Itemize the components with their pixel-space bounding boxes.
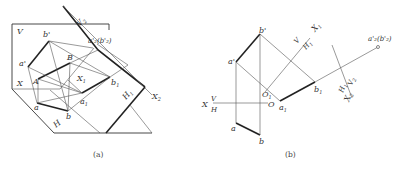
label-x1: X1: [76, 74, 86, 84]
h1-plane-bottom: [130, 105, 152, 133]
label-o1-b: O1: [262, 90, 272, 100]
figure-b: b' a' X V H O O1 a b a1 b1 V H1 X1 a'₂(b…: [201, 21, 392, 159]
v-plane-frame: [12, 24, 109, 89]
segment-ab-b: [236, 123, 260, 135]
segment-ab-projection: [37, 103, 68, 111]
label-v: V: [17, 27, 24, 36]
segment-a1b1: [82, 77, 110, 93]
label-h-b: H: [210, 106, 218, 114]
label-a-prime: a': [19, 59, 26, 68]
label-a1: a1: [80, 97, 88, 107]
label-b-b: b: [259, 137, 264, 146]
label-x: X: [16, 79, 23, 88]
label-a-prime-b: a': [228, 57, 235, 66]
label-a: a: [34, 103, 39, 112]
label-b: b: [66, 112, 71, 121]
label-a1-b: a1: [279, 103, 287, 113]
label-a2-b2-b: a'₂(b'₂): [368, 35, 392, 43]
segment-ab: [38, 63, 70, 79]
label-v2-b: V2: [346, 76, 357, 87]
caption-b: (b): [285, 150, 296, 159]
projector-b1-a2: [315, 47, 378, 82]
label-v2: V2: [75, 16, 88, 29]
label-B: B: [66, 53, 73, 62]
label-x2: X2: [151, 92, 161, 102]
label-o-b: O: [268, 100, 275, 109]
label-h: H: [51, 117, 64, 130]
auxiliary-projection-figure: V b' B a' A X X1 a b a1 b1 H H1 X2 V2 a'…: [0, 0, 400, 170]
caption-a: (a): [93, 150, 103, 159]
label-b1: b1: [111, 78, 119, 88]
label-v-top-b: V: [292, 36, 302, 46]
label-v-b: V: [211, 95, 217, 103]
label-x-b: X: [201, 100, 208, 109]
segment-a1b1-b: [280, 82, 315, 101]
segment-a-prime-b-prime-b: [236, 34, 260, 62]
label-b-prime-b: b': [259, 26, 266, 35]
label-A: A: [32, 77, 39, 86]
label-b-prime: b': [43, 30, 50, 39]
figure-a: V b' B a' A X X1 a b a1 b1 H H1 X2 V2 a'…: [12, 6, 161, 159]
segment-a-prime-b-prime: [28, 41, 49, 67]
label-x1-b: X1: [309, 21, 323, 35]
label-a-b: a: [231, 124, 236, 133]
label-a2-b2: a'₂(b'₂): [88, 37, 112, 45]
label-b1-b: b1: [314, 85, 322, 95]
